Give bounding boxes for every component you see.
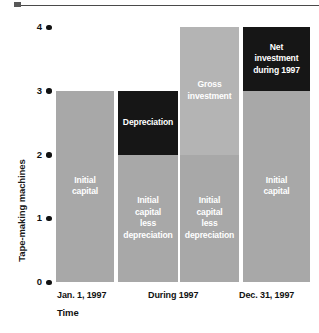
y-tick-1: 1 <box>32 212 56 224</box>
bar-3-segment-2: Gross investment <box>180 27 239 155</box>
y-tick-dot-icon <box>46 25 52 31</box>
bar-3: Initial capital less depreciationGross i… <box>180 27 239 282</box>
y-tick-dot-icon <box>46 152 52 158</box>
bar-1: Initial capital <box>56 91 114 282</box>
y-tick-label: 3 <box>32 85 42 97</box>
y-tick-4: 4 <box>32 21 56 33</box>
bar-4-segment-1: Initial capital <box>243 91 310 282</box>
segment-label: Initial capital <box>70 175 100 198</box>
x-axis-title: Time <box>57 307 79 318</box>
bar-4-segment-2: Net investment during 1997 <box>243 27 310 91</box>
y-tick-label: 0 <box>32 276 42 288</box>
y-tick-label: 1 <box>32 212 42 224</box>
bar-3-segment-1: Initial capital less depreciation <box>180 155 239 283</box>
segment-label: Initial capital <box>261 175 291 198</box>
x-tick-label-2: During 1997 <box>148 290 198 300</box>
bar-2: Initial capital less depreciationDepreci… <box>118 91 178 282</box>
bar-4: Initial capitalNet investment during 199… <box>243 27 310 282</box>
bar-2-segment-1: Initial capital less depreciation <box>118 155 178 283</box>
segment-label: Gross investment <box>186 79 234 102</box>
y-tick-0: 0 <box>32 276 56 288</box>
y-tick-3: 3 <box>32 85 56 97</box>
segment-label: Net investment during 1997 <box>251 42 302 77</box>
y-tick-2: 2 <box>32 149 56 161</box>
y-tick-dot-icon <box>46 216 52 222</box>
figure-caption-cropped <box>8 327 311 333</box>
y-tick-label: 4 <box>32 21 42 33</box>
bar-2-segment-2: Depreciation <box>118 91 178 155</box>
y-tick-label: 2 <box>32 149 42 161</box>
y-tick-dot-icon <box>46 280 52 286</box>
segment-label: Depreciation <box>121 117 175 129</box>
y-axis-title: Tape-making machines <box>16 136 27 286</box>
segment-label: Initial capital less depreciation <box>183 195 236 241</box>
segment-label: Initial capital less depreciation <box>121 195 174 241</box>
y-tick-dot-icon <box>46 88 52 94</box>
bar-1-segment-1: Initial capital <box>56 91 114 282</box>
x-tick-label-1: Jan. 1, 1997 <box>57 290 106 300</box>
chart-plot-area: Tape-making machines 43210 Initial capit… <box>0 0 319 333</box>
figure-root: Tape-making machines 43210 Initial capit… <box>0 0 319 333</box>
x-tick-label-3: Dec. 31, 1997 <box>239 290 294 300</box>
